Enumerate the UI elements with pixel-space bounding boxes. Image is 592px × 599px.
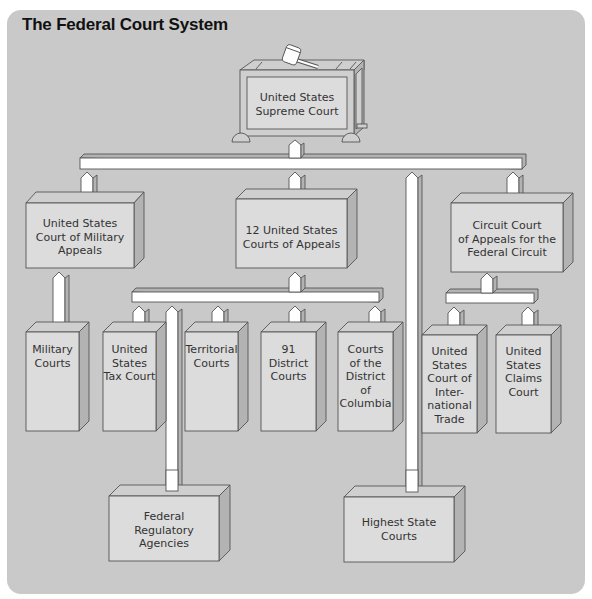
connector-bar-top: [80, 140, 526, 169]
connector-military: [53, 272, 69, 330]
label-claims: UnitedStatesClaimsCourt: [496, 345, 551, 399]
connector-bar-federal-circuit: [446, 273, 538, 330]
box-military-courts: [26, 322, 89, 431]
label-dc-courts: Courtsof theDistrictofColumbia: [338, 343, 393, 411]
label-district: 91DistrictCourts: [261, 343, 316, 384]
label-intl-trade: UnitedStatesCourt ofInter-nationalTrade: [422, 345, 477, 426]
label-territorial: TerritorialCourts: [185, 343, 238, 370]
connector-pole-state: [406, 172, 422, 493]
label-military-courts: MilitaryCourts: [26, 343, 79, 370]
label-military-appeals: United StatesCourt of MilitaryAppeals: [26, 217, 134, 258]
label-federal-circuit: Circuit Courtof Appeals for theFederal C…: [451, 219, 563, 260]
connector-pole-regulatory: [166, 306, 182, 493]
court-hierarchy-diagram: .o { stroke:#555; stroke-width:0.9; } .w…: [0, 0, 592, 599]
label-supreme-court: United StatesSupreme Court: [247, 91, 347, 118]
label-regulatory: FederalRegulatoryAgencies: [109, 510, 219, 551]
box-territorial: [185, 322, 248, 431]
label-courts-of-appeals: 12 United StatesCourts of Appeals: [236, 224, 347, 251]
label-tax-court: UnitedStatesTax Court: [103, 343, 156, 384]
label-state: Highest StateCourts: [344, 516, 454, 543]
